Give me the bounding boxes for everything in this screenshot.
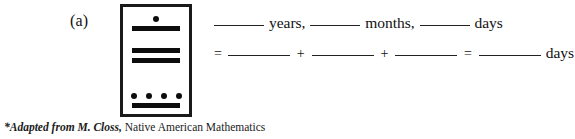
plus-sign-1: + [294,39,308,69]
mayan-bar-icon [132,58,180,63]
blank-months[interactable] [310,14,360,26]
blank-days[interactable] [420,14,470,26]
mayan-dot-row [123,91,189,100]
part-label: (a) [70,12,88,30]
mayan-dot-icon [131,93,137,99]
unit-days-total: days [545,44,575,61]
unit-days: days [473,14,503,31]
mayan-dot-icon [146,93,152,99]
equals-sign-lead: = [214,39,224,69]
mayan-bar-icon [132,103,180,108]
blank-term-3[interactable] [395,44,457,56]
mayan-bar-icon [132,26,180,31]
mayan-numeral-card [120,4,192,117]
equals-sign-mid: = [461,39,475,69]
blank-total-days[interactable] [479,44,541,56]
mayan-group-bottom [123,91,189,108]
mayan-dot-row [123,14,189,23]
footnote-source-italic: *Adapted from M. Closs, [4,121,122,133]
mayan-dot-icon [176,93,182,99]
answer-line-units: years, months, days [214,8,570,38]
mayan-dot-icon [153,16,159,22]
blank-term-1[interactable] [228,44,290,56]
mayan-group-top [123,14,189,31]
footnote-source-title: Native American Mathematics [122,121,265,133]
unit-years: years, [268,14,307,31]
blank-years[interactable] [214,14,264,26]
plus-sign-2: + [377,39,391,69]
mayan-group-middle [123,48,189,63]
blank-term-2[interactable] [312,44,374,56]
mayan-dot-icon [161,93,167,99]
answer-line-sum: = + + = days [214,38,570,68]
answer-block: years, months, days = + + = days [214,8,570,68]
footnote: *Adapted from M. Closs, Native American … [4,121,265,133]
unit-months: months, [364,14,416,31]
